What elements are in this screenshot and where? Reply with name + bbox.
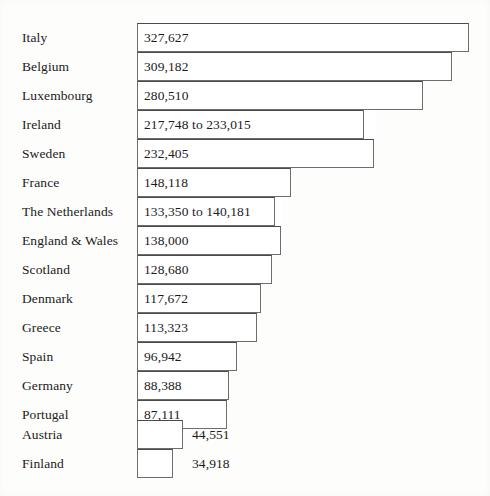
chart-row: Italy327,627 [0, 23, 490, 52]
chart-row: France148,118 [0, 168, 490, 197]
bar-value-label: 232,405 [144, 139, 189, 168]
category-label: Denmark [22, 284, 73, 313]
bar [137, 449, 173, 478]
category-label: Spain [22, 342, 53, 371]
chart-row: Austria44,551 [0, 420, 490, 449]
horizontal-bar-chart: Italy327,627Belgium309,182Luxembourg280,… [0, 0, 490, 496]
category-label: France [22, 168, 59, 197]
chart-row: Denmark117,672 [0, 284, 490, 313]
bar-value-label: 280,510 [144, 81, 189, 110]
chart-row: Luxembourg280,510 [0, 81, 490, 110]
bar-value-label: 309,182 [144, 52, 189, 81]
chart-row: England & Wales138,000 [0, 226, 490, 255]
category-label: Austria [22, 420, 62, 449]
chart-page: Italy327,627Belgium309,182Luxembourg280,… [0, 0, 490, 496]
chart-row: Spain96,942 [0, 342, 490, 371]
chart-row: Finland34,918 [0, 449, 490, 478]
bar-value-label: 133,350 to 140,181 [144, 197, 251, 226]
category-label: Greece [22, 313, 61, 342]
category-label: Sweden [22, 139, 65, 168]
bar-value-label: 113,323 [144, 313, 188, 342]
bar-value-label: 217,748 to 233,015 [144, 110, 251, 139]
bar-value-label: 34,918 [192, 449, 230, 478]
category-label: Italy [22, 23, 47, 52]
chart-row: Germany88,388 [0, 371, 490, 400]
chart-row: Ireland217,748 to 233,015 [0, 110, 490, 139]
bar-range-segment [274, 197, 283, 226]
category-label: England & Wales [22, 226, 118, 255]
chart-row: Greece113,323 [0, 313, 490, 342]
chart-row: Sweden232,405 [0, 139, 490, 168]
chart-row: Belgium309,182 [0, 52, 490, 81]
bar-value-label: 44,551 [192, 420, 230, 449]
bar-value-label: 327,627 [144, 23, 189, 52]
category-label: Finland [22, 449, 64, 478]
category-label: Germany [22, 371, 73, 400]
bar-value-label: 96,942 [144, 342, 182, 371]
chart-row: The Netherlands133,350 to 140,181 [0, 197, 490, 226]
category-label: Belgium [22, 52, 69, 81]
bar-value-label: 148,118 [144, 168, 188, 197]
category-label: Scotland [22, 255, 70, 284]
chart-row: Scotland128,680 [0, 255, 490, 284]
category-label: Luxembourg [22, 81, 93, 110]
bar-value-label: 88,388 [144, 371, 182, 400]
category-label: Ireland [22, 110, 61, 139]
bar [137, 420, 183, 449]
category-label: The Netherlands [22, 197, 113, 226]
bar-value-label: 138,000 [144, 226, 189, 255]
bar-value-label: 128,680 [144, 255, 189, 284]
bar-value-label: 117,672 [144, 284, 188, 313]
bar-range-segment [363, 110, 375, 139]
